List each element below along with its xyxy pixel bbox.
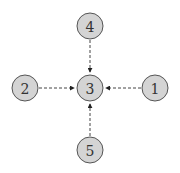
graph-diagram: 4 2 3 1 5: [0, 0, 180, 173]
node-3: 3: [77, 75, 103, 101]
node-label: 4: [86, 19, 95, 35]
node-label: 1: [151, 81, 160, 97]
node-5: 5: [77, 137, 103, 163]
node-label: 3: [86, 81, 95, 97]
node-label: 5: [86, 143, 95, 159]
node-1: 1: [142, 75, 168, 101]
node-4: 4: [77, 13, 103, 39]
node-label: 2: [21, 81, 30, 97]
node-2: 2: [12, 75, 38, 101]
